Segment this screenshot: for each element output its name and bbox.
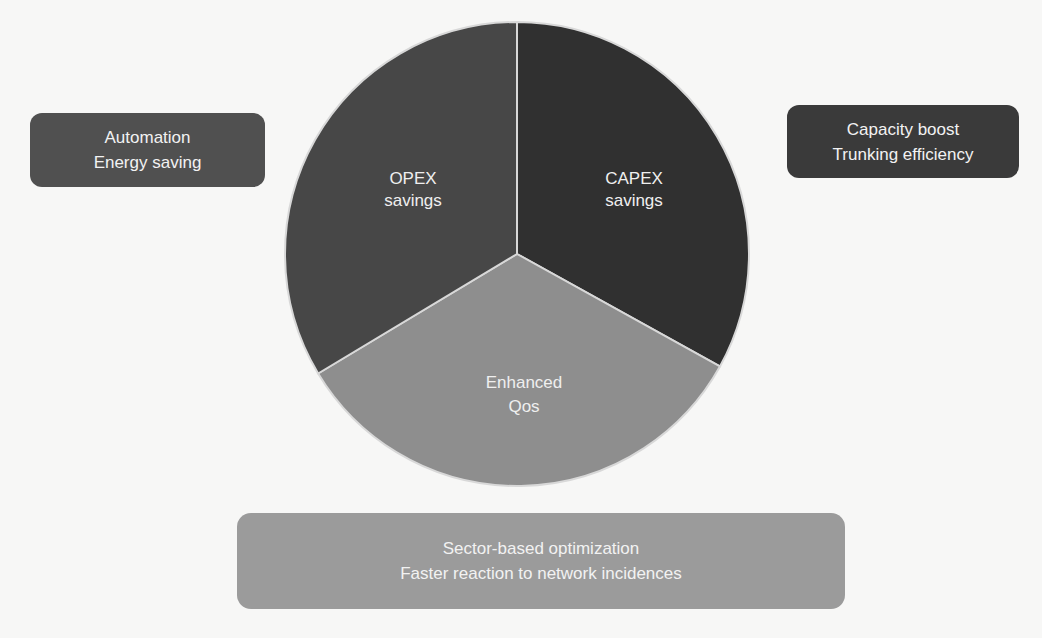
- callout-line: Faster reaction to network incidences: [237, 561, 845, 586]
- callout-line: Capacity boost: [787, 117, 1019, 142]
- qos-label-line2: Qos: [508, 397, 539, 416]
- capex-callout-box: Capacity boost Trunking efficiency: [787, 105, 1019, 178]
- capex-label-line1: CAPEX: [605, 169, 663, 188]
- callout-line: Automation: [30, 125, 265, 150]
- opex-label-line1: OPEX: [389, 169, 436, 188]
- callout-line: Trunking efficiency: [787, 142, 1019, 167]
- opex-label-line2: savings: [384, 191, 442, 210]
- qos-label-line1: Enhanced: [486, 373, 563, 392]
- capex-label-line2: savings: [605, 191, 663, 210]
- opex-callout-box: Automation Energy saving: [30, 113, 265, 187]
- callout-line: Energy saving: [30, 150, 265, 175]
- callout-line: Sector-based optimization: [237, 536, 845, 561]
- qos-callout-box: Sector-based optimization Faster reactio…: [237, 513, 845, 609]
